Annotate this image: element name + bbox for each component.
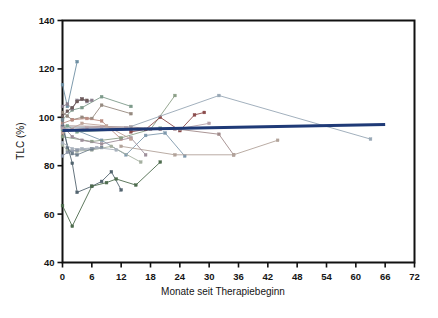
chart-figure: 406080100120140 061218243036424854606672…	[0, 0, 438, 318]
x-tick-label: 12	[116, 271, 127, 282]
x-tick-label: 36	[233, 271, 244, 282]
y-tick-label: 80	[44, 160, 55, 171]
x-axis-title: Monate seit Therapiebeginn	[161, 286, 285, 297]
y-tick-label: 120	[39, 63, 55, 74]
x-tick-label: 48	[292, 271, 303, 282]
x-tick-label: 18	[145, 271, 156, 282]
tlc-spaghetti-chart: 406080100120140 061218243036424854606672…	[0, 0, 438, 318]
x-tick-label: 24	[175, 271, 186, 282]
y-tick-label: 140	[39, 15, 55, 26]
x-tick-label: 66	[380, 271, 391, 282]
x-tick-label: 60	[351, 271, 362, 282]
x-tick-label: 72	[409, 271, 420, 282]
x-tick-label: 42	[263, 271, 274, 282]
chart-background	[0, 0, 438, 318]
x-tick-label: 30	[204, 271, 215, 282]
x-tick-label: 6	[89, 271, 94, 282]
x-tick-label: 0	[60, 271, 65, 282]
y-axis-title: TLC (%)	[15, 122, 26, 159]
y-tick-label: 100	[39, 112, 55, 123]
y-tick-label: 60	[44, 209, 55, 220]
x-tick-label: 54	[321, 271, 332, 282]
y-tick-label: 40	[44, 257, 55, 268]
